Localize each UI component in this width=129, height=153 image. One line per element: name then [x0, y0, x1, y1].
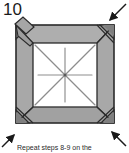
crease-center-point: [64, 74, 67, 77]
crease-star-group: [35, 45, 95, 105]
arrow-top-right: [110, 4, 126, 20]
origami-step-diagram: [0, 0, 129, 153]
instruction-diagram-page: 10: [0, 0, 129, 153]
step-caption: Repeat steps 8-9 on the: [17, 144, 113, 152]
arrow-bottom-left: [2, 135, 14, 147]
band-shade-bottom: [17, 108, 113, 122]
arrow-bottom-right: [112, 132, 126, 146]
